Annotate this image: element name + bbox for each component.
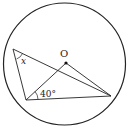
label-o: O <box>60 48 68 59</box>
angle-arc-40 <box>35 92 38 100</box>
label-x: x <box>21 56 26 66</box>
circle-diagram: O x 40° <box>0 0 129 128</box>
segment-b-c <box>26 96 111 100</box>
segment-o-c <box>66 63 111 96</box>
label-40-degrees: 40° <box>40 89 56 99</box>
diagram-canvas: O x 40° <box>0 0 129 128</box>
center-point-o <box>64 61 67 64</box>
